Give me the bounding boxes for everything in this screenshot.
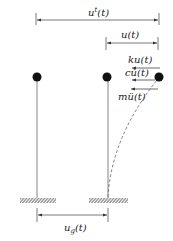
spring-force-label: ku(t) — [128, 54, 152, 65]
sdof-diagram: ut(t) u(t) ku(t) cu̇(t) mü(t) ug(t) — [0, 0, 173, 241]
mass-icon — [103, 73, 112, 82]
relative-displacement-label: u(t) — [121, 29, 139, 40]
force-arrows: ku(t) cu̇(t) mü(t) — [118, 54, 160, 102]
total-displacement-label: ut(t) — [88, 6, 109, 18]
ground-displacement-dimension: ug(t) — [37, 208, 108, 235]
original-structure — [20, 73, 56, 204]
inertia-force-label: mü(t) — [118, 91, 146, 102]
relative-displacement-dimension: u(t) — [106, 29, 158, 50]
damping-force-label: cu̇(t) — [125, 67, 149, 78]
ground-hatch — [20, 198, 56, 203]
mass-icon — [33, 73, 42, 82]
ground-displacement-label: ug(t) — [64, 222, 87, 235]
ground-hatch — [89, 198, 128, 203]
deformed-mass-icon — [155, 73, 164, 82]
total-displacement-dimension: ut(t) — [36, 6, 159, 25]
